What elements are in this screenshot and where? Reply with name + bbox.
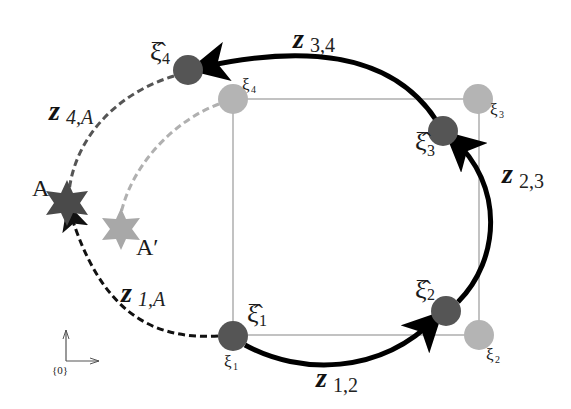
svg-text:3: 3 [427, 142, 435, 159]
svg-text:4,A: 4,A [66, 106, 94, 128]
svg-text:2: 2 [495, 354, 500, 365]
true-pose-xi3 [463, 84, 493, 114]
svg-text:2: 2 [427, 286, 435, 303]
label-z1A: z 1,A [120, 277, 166, 310]
svg-text:1,2: 1,2 [333, 374, 358, 396]
label-xi3: ξ 3 [490, 100, 504, 120]
svg-text:ξ: ξ [490, 100, 498, 119]
svg-text:z: z [292, 23, 304, 54]
label-xihat4: ξ̂ 4 [150, 37, 170, 67]
estimated-pose-xihat4 [173, 55, 203, 85]
label-xihat1: ξ̂ 1 [247, 299, 267, 329]
edge-z1A [70, 212, 218, 336]
estimated-pose-xihat1 [218, 321, 248, 351]
world-frame-axes-icon [66, 330, 99, 361]
svg-text:1: 1 [233, 361, 238, 372]
true-landmark-edge [120, 104, 219, 218]
svg-text:ξ: ξ [224, 352, 232, 371]
estimated-pose-xihat2 [431, 296, 461, 326]
label-landmark-A-prime: A′ [136, 234, 159, 260]
svg-text:z: z [315, 362, 327, 393]
svg-text:3: 3 [499, 109, 504, 120]
svg-text:ξ: ξ [486, 345, 494, 364]
label-z23: z 2,3 [501, 158, 544, 192]
svg-text:1,A: 1,A [138, 288, 166, 310]
label-z4A: z 4,A [48, 95, 94, 128]
svg-text:4: 4 [251, 84, 256, 95]
svg-text:ξ: ξ [242, 75, 250, 94]
svg-text:3,4: 3,4 [310, 34, 335, 56]
label-world-frame: {0} [52, 364, 68, 376]
label-landmark-A: A [32, 175, 50, 201]
label-xi1: ξ 1 [224, 352, 238, 372]
landmark-A-star-icon [46, 180, 88, 226]
label-xi2: ξ 2 [486, 345, 500, 365]
pose-graph-diagram: ξ̂ 4 ξ̂ 3 ξ̂ 2 ξ̂ 1 ξ 4 ξ 3 ξ 2 ξ 1 z 3,… [0, 0, 571, 409]
svg-text:z: z [48, 95, 60, 126]
edge-z23 [452, 138, 491, 302]
svg-text:z: z [501, 158, 513, 189]
svg-text:z: z [120, 277, 132, 308]
svg-text:2,3: 2,3 [519, 170, 544, 192]
label-z34: z 3,4 [292, 23, 335, 56]
label-z12: z 1,2 [315, 362, 358, 396]
label-xi4: ξ 4 [242, 75, 256, 95]
edge-z12 [245, 318, 436, 365]
landmark-A-prime-star-icon [102, 208, 140, 250]
label-xihat2: ξ̂ 2 [415, 275, 435, 304]
edge-z4A [69, 76, 174, 192]
svg-text:4: 4 [162, 50, 170, 67]
svg-text:1: 1 [259, 312, 267, 329]
